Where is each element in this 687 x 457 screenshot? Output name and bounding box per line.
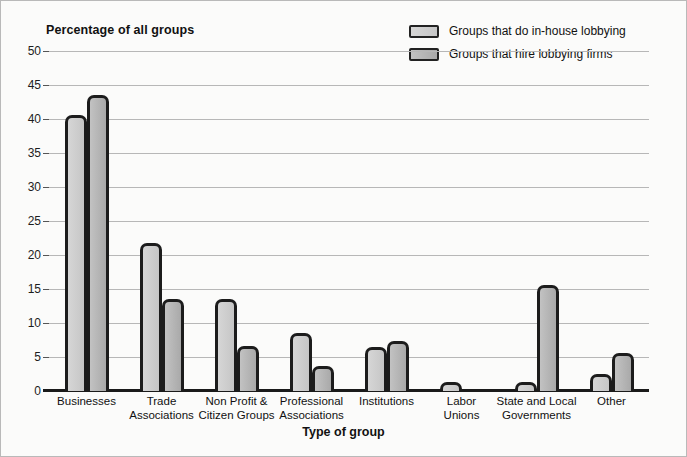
- bar: [365, 347, 387, 391]
- bar: [290, 333, 312, 391]
- x-axis-title: Type of group: [1, 425, 686, 439]
- plot-area: BusinessesTradeAssociationsNon Profit &C…: [49, 51, 649, 391]
- y-axis-tick-label: 30: [1, 180, 41, 194]
- y-axis-tick-label: 50: [1, 44, 41, 58]
- bar-group: [124, 243, 199, 391]
- bar: [515, 382, 537, 391]
- legend-item-in-house: Groups that do in-house lobbying: [409, 24, 626, 38]
- bar: [65, 115, 87, 391]
- y-axis-tick-label: 25: [1, 214, 41, 228]
- bar: [537, 285, 559, 391]
- y-axis-title: Percentage of all groups: [46, 23, 194, 37]
- y-axis-tick-label: 20: [1, 248, 41, 262]
- legend-swatch-series-1: [409, 25, 439, 38]
- y-axis-tick-label: 35: [1, 146, 41, 160]
- bar-group: [274, 333, 349, 391]
- gridline: [49, 221, 649, 222]
- y-axis-tick-label: 45: [1, 78, 41, 92]
- bar-group: [424, 382, 499, 391]
- y-axis-ticks: 05101520253035404550: [1, 51, 41, 391]
- bar: [612, 353, 634, 391]
- bar: [387, 341, 409, 391]
- bar: [590, 374, 612, 391]
- bar-group: [199, 299, 274, 391]
- bar: [215, 299, 237, 391]
- bar: [237, 346, 259, 391]
- bar-group: [349, 341, 424, 391]
- x-axis-category-label: Other: [552, 395, 672, 409]
- bar: [87, 95, 109, 391]
- gridline: [49, 153, 649, 154]
- legend-label-series-1: Groups that do in-house lobbying: [449, 24, 626, 38]
- y-axis-tick-label: 5: [1, 350, 41, 364]
- bar-group: [574, 353, 649, 391]
- gridline: [49, 51, 649, 52]
- bar-group: [499, 285, 574, 391]
- chart-figure: Percentage of all groups Groups that do …: [0, 0, 687, 457]
- gridline: [49, 119, 649, 120]
- bar: [312, 366, 334, 391]
- bar: [440, 382, 462, 391]
- gridline: [49, 85, 649, 86]
- gridline: [49, 187, 649, 188]
- bar: [140, 243, 162, 391]
- y-axis-tick-label: 15: [1, 282, 41, 296]
- y-axis-tick-label: 10: [1, 316, 41, 330]
- y-axis-tick-label: 40: [1, 112, 41, 126]
- bar-group: [49, 95, 124, 391]
- bar: [162, 299, 184, 391]
